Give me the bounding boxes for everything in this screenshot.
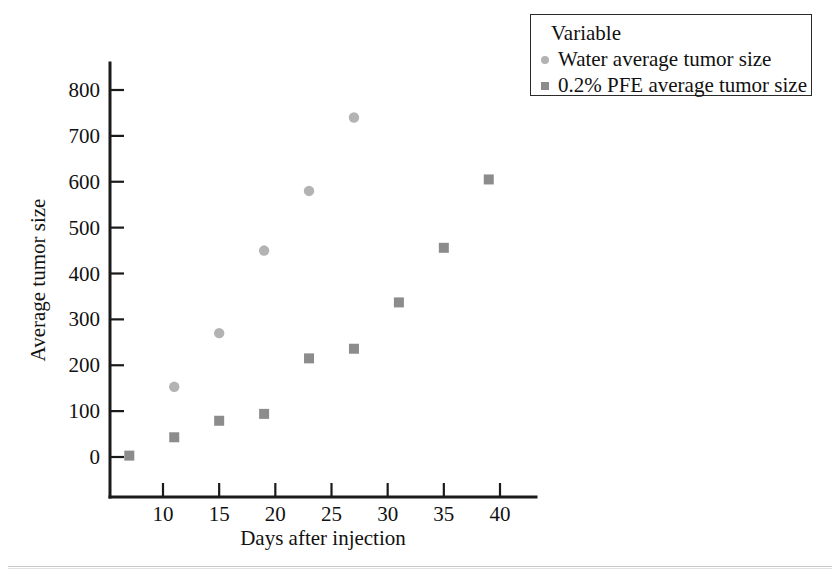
legend-label-pfe: 0.2% PFE average tumor size bbox=[558, 73, 807, 97]
legend: Variable Water average tumor size 0.2% P… bbox=[530, 14, 812, 96]
footer-rule-secondary bbox=[8, 568, 832, 569]
x-axis-ticks: 10152025303540 bbox=[153, 483, 511, 526]
legend-title: Variable bbox=[531, 21, 811, 46]
legend-label-water: Water average tumor size bbox=[558, 47, 771, 71]
circle-marker-icon bbox=[537, 51, 553, 67]
data-point-square bbox=[214, 416, 224, 426]
data-point-circle bbox=[304, 186, 314, 196]
footer-rule bbox=[8, 566, 832, 567]
y-axis-ticks: 0100200300400500600700800 bbox=[69, 78, 125, 469]
y-tick-label: 0 bbox=[90, 445, 101, 469]
x-tick-label: 25 bbox=[321, 502, 342, 526]
data-point-square bbox=[439, 243, 449, 253]
data-point-circle bbox=[169, 382, 179, 392]
x-tick-label: 35 bbox=[433, 502, 454, 526]
y-tick-label: 300 bbox=[69, 307, 101, 331]
x-tick-label: 40 bbox=[490, 502, 511, 526]
y-tick-label: 100 bbox=[69, 399, 101, 423]
data-point-square bbox=[349, 344, 359, 354]
data-point-square bbox=[259, 409, 269, 419]
x-tick-label: 30 bbox=[377, 502, 398, 526]
square-marker-icon bbox=[537, 77, 553, 93]
x-tick-label: 10 bbox=[153, 502, 174, 526]
data-point-square bbox=[304, 353, 314, 363]
y-tick-label: 200 bbox=[69, 353, 101, 377]
data-point-square bbox=[124, 451, 134, 461]
legend-entry-pfe: 0.2% PFE average tumor size bbox=[531, 72, 811, 98]
y-tick-label: 700 bbox=[69, 124, 101, 148]
legend-entry-water: Water average tumor size bbox=[531, 46, 811, 72]
data-point-circle bbox=[349, 112, 359, 122]
x-axis-title: Days after injection bbox=[240, 526, 406, 550]
y-axis-title: Average tumor size bbox=[26, 199, 50, 362]
axes bbox=[110, 63, 536, 497]
data-point-circle bbox=[214, 328, 224, 338]
y-tick-label: 400 bbox=[69, 262, 101, 286]
chart-page: 0100200300400500600700800 10152025303540… bbox=[0, 0, 840, 579]
data-point-square bbox=[169, 432, 179, 442]
x-tick-label: 15 bbox=[209, 502, 230, 526]
y-tick-label: 500 bbox=[69, 216, 101, 240]
y-tick-label: 800 bbox=[69, 78, 101, 102]
data-point-circle bbox=[259, 245, 269, 255]
data-points bbox=[124, 112, 493, 460]
x-tick-label: 20 bbox=[265, 502, 286, 526]
data-point-square bbox=[394, 297, 404, 307]
y-tick-label: 600 bbox=[69, 170, 101, 194]
data-point-square bbox=[484, 174, 494, 184]
